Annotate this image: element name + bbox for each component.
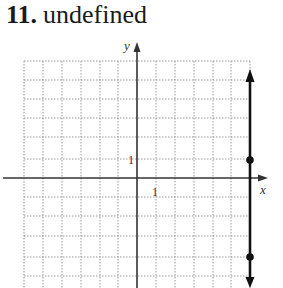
point-6-1 <box>246 156 254 164</box>
point-6-neg4 <box>246 253 254 261</box>
x-axis-label: x <box>259 182 266 197</box>
coordinate-plane: x y 1 1 <box>0 0 283 288</box>
y-axis <box>134 42 141 288</box>
y-axis-label: y <box>122 38 130 53</box>
y-tick-label: 1 <box>128 153 134 167</box>
line-arrow-up-icon <box>246 69 255 82</box>
line-arrow-down-icon <box>246 277 255 288</box>
y-axis-arrow-icon <box>134 42 141 52</box>
x-axis-arrow-icon <box>258 175 268 182</box>
x-tick-label: 1 <box>152 185 158 199</box>
